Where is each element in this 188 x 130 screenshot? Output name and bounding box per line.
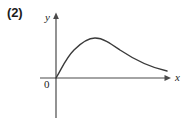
y-axis-label: y <box>45 12 50 23</box>
graph-plot <box>0 0 188 130</box>
figure-container: (2) y x 0 <box>0 0 188 130</box>
y-axis-arrowhead-icon <box>53 13 59 20</box>
origin-label: 0 <box>44 79 50 90</box>
x-axis-label: x <box>175 72 180 83</box>
x-axis-arrowhead-icon <box>165 75 172 81</box>
curve-path <box>56 38 167 78</box>
